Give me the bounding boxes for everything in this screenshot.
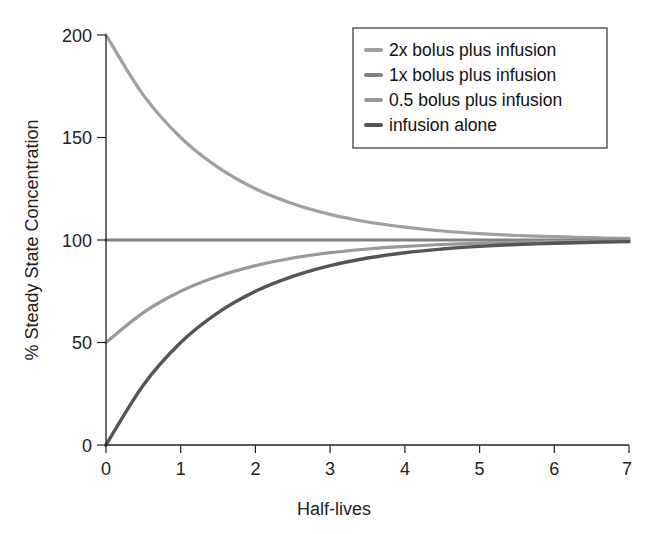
y-tick-label: 0 bbox=[82, 436, 92, 456]
chart: 200 150 100 50 0 0 1 2 3 4 5 6 7 Half-li… bbox=[0, 0, 645, 534]
legend-label: infusion alone bbox=[389, 115, 497, 135]
x-tick-label: 6 bbox=[549, 459, 559, 479]
x-tick-label: 2 bbox=[250, 459, 260, 479]
y-tick-label: 200 bbox=[62, 26, 92, 46]
legend: 2x bolus plus infusion 1x bolus plus inf… bbox=[353, 28, 607, 148]
series-line bbox=[106, 241, 629, 343]
y-tick-label: 100 bbox=[62, 231, 92, 251]
y-tick-label: 50 bbox=[72, 333, 92, 353]
x-tick-label: 0 bbox=[101, 459, 111, 479]
y-ticks: 200 150 100 50 0 bbox=[62, 26, 106, 456]
legend-label: 2x bolus plus infusion bbox=[389, 40, 556, 60]
x-ticks: 0 1 2 3 4 5 6 7 bbox=[101, 445, 632, 479]
legend-item: 1x bolus plus infusion bbox=[366, 65, 556, 85]
x-axis-title: Half-lives bbox=[297, 499, 371, 519]
legend-item: 0.5 bolus plus infusion bbox=[366, 90, 562, 110]
x-tick-label: 3 bbox=[325, 459, 335, 479]
x-tick-label: 7 bbox=[622, 459, 632, 479]
x-tick-label: 4 bbox=[400, 459, 410, 479]
x-tick-label: 5 bbox=[475, 459, 485, 479]
y-axis-title: % Steady State Concentration bbox=[22, 119, 42, 360]
legend-label: 1x bolus plus infusion bbox=[389, 65, 556, 85]
legend-item: 2x bolus plus infusion bbox=[366, 40, 556, 60]
x-tick-label: 1 bbox=[176, 459, 186, 479]
series-line bbox=[106, 242, 629, 445]
legend-label: 0.5 bolus plus infusion bbox=[389, 90, 562, 110]
y-tick-label: 150 bbox=[62, 128, 92, 148]
